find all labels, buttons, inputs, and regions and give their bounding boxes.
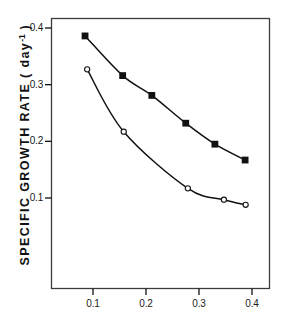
y-tick-label-2: 0.3 [13, 79, 43, 90]
plot-frame [52, 19, 270, 289]
x-tick-label-3: 0.4 [236, 298, 268, 309]
data-series-layer [82, 33, 249, 208]
y-tick-label-3: 0.4 [13, 22, 43, 33]
x-tick-label-0: 0.1 [77, 298, 109, 309]
data-point-upper-curve-1 [119, 72, 126, 79]
series-line-lower-curve [87, 69, 245, 204]
data-point-lower-curve-4 [243, 202, 248, 207]
data-point-lower-curve-1 [121, 129, 126, 134]
x-tick-label-1: 0.2 [130, 298, 162, 309]
axes-frame [52, 19, 270, 289]
series-upper-curve [82, 33, 249, 164]
data-point-upper-curve-2 [148, 92, 155, 99]
data-point-upper-curve-4 [212, 141, 219, 148]
y-axis-title-exponent: -1 [17, 34, 27, 42]
y-tick-label-0: 0.1 [13, 192, 43, 203]
y-axis-title-main: SPECIFIC GROWTH RATE ( day [18, 42, 32, 266]
series-lower-curve [85, 67, 249, 208]
y-tick-label-1: 0.2 [13, 135, 43, 146]
data-point-upper-curve-0 [82, 33, 89, 40]
data-point-upper-curve-3 [182, 120, 189, 127]
data-point-lower-curve-0 [85, 67, 90, 72]
chart-plot-area [0, 0, 287, 321]
series-line-upper-curve [85, 36, 245, 160]
x-axis-ticks [93, 289, 252, 296]
data-point-upper-curve-5 [242, 157, 249, 164]
data-point-lower-curve-3 [221, 197, 226, 202]
data-point-lower-curve-2 [185, 186, 190, 191]
figure-container: SPECIFIC GROWTH RATE ( day-1 ) 0.10.20.3… [0, 0, 287, 321]
y-axis-ticks [45, 28, 52, 198]
x-tick-label-2: 0.3 [183, 298, 215, 309]
